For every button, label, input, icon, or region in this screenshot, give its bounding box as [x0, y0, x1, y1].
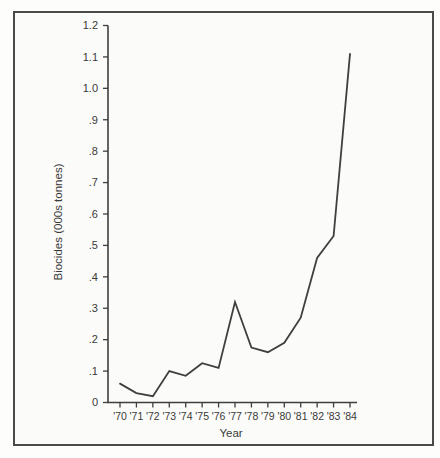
x-tick-label: '81 [294, 410, 308, 422]
y-tick-label: .8 [89, 145, 98, 157]
axis-lines [108, 26, 357, 403]
x-axis-ticks: '70'71'72'73'74'75'76'77'78'79'80'81'82'… [113, 403, 357, 422]
y-tick-label: .1 [89, 365, 98, 377]
y-tick-label: 0 [92, 396, 98, 408]
line-chart: 0.1.2.3.4.5.6.7.8.91.01.11.2 '70'71'72'7… [0, 0, 440, 458]
x-tick-label: '79 [261, 410, 275, 422]
data-series [120, 54, 350, 396]
x-tick-label: '71 [130, 410, 144, 422]
y-tick-label: .4 [89, 271, 98, 283]
x-tick-label: '78 [245, 410, 259, 422]
y-tick-label: .2 [89, 333, 98, 345]
x-tick-label: '77 [228, 410, 242, 422]
y-tick-label: .6 [89, 208, 98, 220]
y-tick-label: 1.0 [83, 82, 98, 94]
x-tick-label: '83 [327, 410, 341, 422]
x-tick-label: '72 [146, 410, 160, 422]
x-tick-label: '84 [343, 410, 357, 422]
axes [108, 26, 357, 403]
y-tick-label: .9 [89, 114, 98, 126]
y-axis-ticks: 0.1.2.3.4.5.6.7.8.91.01.11.2 [83, 19, 108, 408]
y-tick-label: 1.1 [83, 51, 98, 63]
y-axis-title: Biocides (000s tonnes) [52, 163, 64, 280]
x-tick-label: '70 [113, 410, 127, 422]
y-tick-label: .5 [89, 239, 98, 251]
y-tick-label: .3 [89, 302, 98, 314]
x-tick-label: '82 [310, 410, 324, 422]
biocides-line [120, 54, 350, 396]
figure: 0.1.2.3.4.5.6.7.8.91.01.11.2 '70'71'72'7… [0, 0, 440, 458]
y-tick-label: .7 [89, 176, 98, 188]
x-tick-label: '73 [162, 410, 176, 422]
x-tick-label: '76 [212, 410, 226, 422]
x-axis-title: Year [219, 427, 242, 439]
x-tick-label: '75 [195, 410, 209, 422]
x-tick-label: '74 [179, 410, 193, 422]
x-tick-label: '80 [277, 410, 291, 422]
y-tick-label: 1.2 [83, 19, 98, 31]
